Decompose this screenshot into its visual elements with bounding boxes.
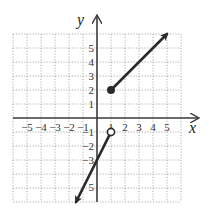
x-tick-label: 3 bbox=[136, 121, 142, 133]
y-tick-label: 5 bbox=[89, 42, 95, 54]
y-tick-label: −3 bbox=[82, 154, 94, 166]
x-tick-label: −3 bbox=[49, 121, 61, 133]
y-axis-label: y bbox=[75, 11, 85, 29]
upper-piece bbox=[107, 34, 167, 94]
y-tick-label: 2 bbox=[89, 84, 95, 96]
open-endpoint-circle bbox=[107, 128, 114, 135]
x-tick-label: 2 bbox=[122, 121, 128, 133]
x-tick-label: 5 bbox=[164, 121, 170, 133]
x-tick-label: −5 bbox=[21, 121, 33, 133]
y-tick-label: 4 bbox=[89, 56, 95, 68]
y-tick-label: 1 bbox=[89, 98, 95, 110]
x-tick-label: −4 bbox=[35, 121, 47, 133]
y-tick-label: −2 bbox=[82, 140, 94, 152]
y-tick-label: −1 bbox=[82, 126, 94, 138]
x-tick-label: 4 bbox=[150, 121, 156, 133]
y-tick-label: 5 bbox=[89, 181, 95, 193]
closed-endpoint-dot bbox=[107, 86, 115, 94]
piecewise-function-graph: −5−4−3−2−11234554321−1−2−35 x y bbox=[0, 0, 209, 211]
y-tick-label: 3 bbox=[89, 70, 95, 82]
x-tick-label: −2 bbox=[63, 121, 75, 133]
x-axis-label: x bbox=[188, 119, 196, 136]
